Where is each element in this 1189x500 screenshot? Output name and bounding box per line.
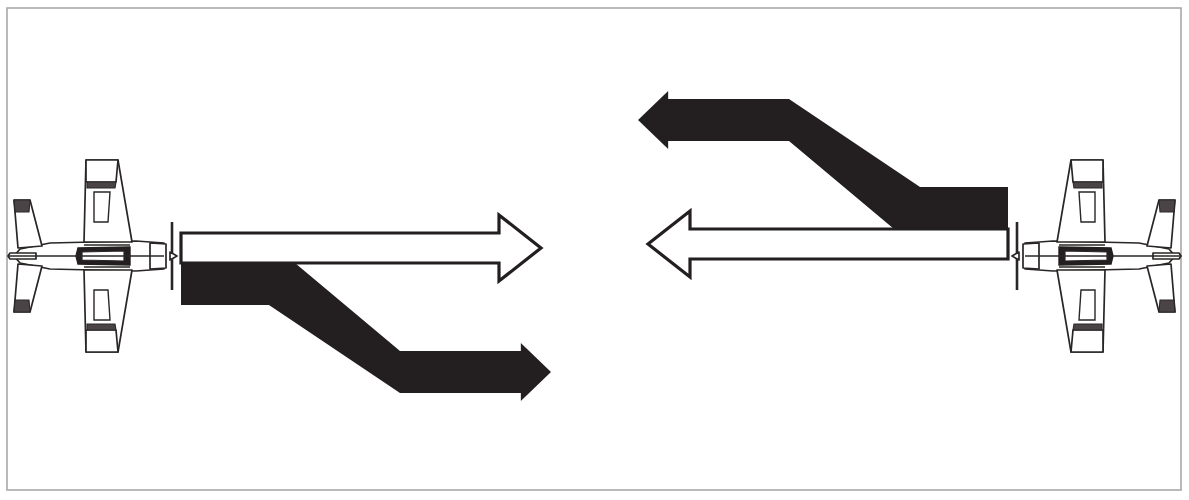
figure-root: .solid-arrow { stroke: none; } .open-arr… (0, 0, 1189, 500)
flight-path-diagram: .solid-arrow { stroke: none; } .open-arr… (0, 0, 1189, 500)
page-background (0, 0, 1189, 500)
